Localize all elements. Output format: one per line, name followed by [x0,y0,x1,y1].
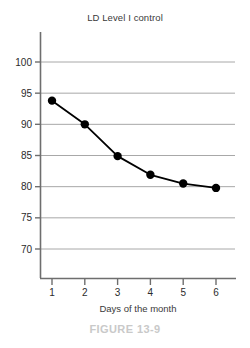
data-point-markers-group [48,96,220,192]
x-axis-tick-label: 1 [49,287,55,298]
y-axis-tick-label: 70 [21,244,33,255]
y-axis-tick-label: 80 [21,181,33,192]
y-axis-tick-label: 75 [21,212,33,223]
data-point-marker [81,120,89,128]
line-chart-plot: 100959085807570 123456 [0,0,250,348]
data-point-marker [113,152,121,160]
data-point-marker [212,184,220,192]
figure-container: LD Level I control 100959085807570 12345… [0,0,250,348]
x-axis-tick-label: 5 [180,287,186,298]
y-axis-tick-label: 85 [21,150,33,161]
data-point-marker [48,96,56,104]
x-axis-tick-label: 6 [213,287,219,298]
y-axis-tick-labels: 100959085807570 [15,57,32,255]
x-axis-ticks-group [52,279,216,285]
y-axis-tick-label: 100 [15,57,32,68]
x-axis-tick-label: 3 [115,287,121,298]
x-axis-tick-label: 2 [82,287,88,298]
y-axis-tick-label: 95 [21,88,33,99]
x-axis-tick-labels: 123456 [49,287,219,298]
data-series-line [52,101,216,188]
gridlines-group [41,62,235,249]
x-axis-label: Days of the month [40,303,236,314]
data-point-marker [179,179,187,187]
y-axis-tick-label: 90 [21,119,33,130]
x-axis-tick-label: 4 [148,287,154,298]
figure-caption: FIGURE 13-9 [0,323,250,335]
data-point-marker [146,171,154,179]
